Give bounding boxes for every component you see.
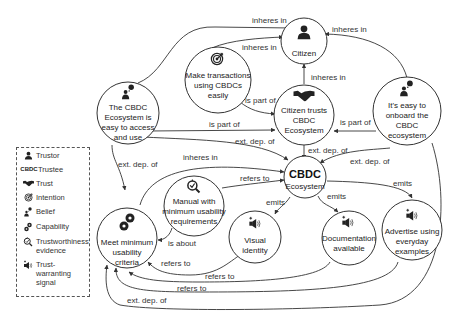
svg-text:Manual with: Manual with [173,197,216,206]
svg-text:easy to access: easy to access [102,123,155,132]
edge-label: inheres in [242,43,277,52]
svg-text:CBDC: CBDC [396,121,419,130]
magnifier-check-icon [20,237,36,247]
edge-label: inheres in [252,16,287,25]
svg-text:identity: identity [242,246,267,255]
svg-text:minimum usability: minimum usability [162,207,226,216]
node-visual-identity: Visual identity [229,211,281,263]
svg-text:Make transactions: Make transactions [186,71,251,80]
legend-item-intention: Intention [20,193,86,202]
node-manual: Manual with minimum usability requiremen… [162,176,226,236]
edge-label: refers to [161,259,191,268]
svg-text:CBDC: CBDC [293,116,316,125]
edge-label: ext. dep. of [235,137,275,146]
svg-text:everyday: everyday [396,237,428,246]
handshake-icon [20,179,36,187]
edge-label: is part of [340,118,371,127]
svg-text:Ecosystem: Ecosystem [284,126,323,135]
legend-item-trust-warranting-signal: Trust-warranting signal [20,260,86,287]
svg-text:using CBDCs: using CBDCs [194,81,242,90]
node-cbdc-ecosystem: CBDC Ecosystem [284,156,326,198]
edge-label: emits [393,179,412,188]
edge-easy-part-of-trusts [148,130,275,131]
svg-text:It's easy to: It's easy to [388,101,427,110]
node-documentation: Documentation available [322,211,376,265]
svg-text:usability: usability [113,248,142,257]
edge-label: refers to [240,174,270,183]
svg-text:requirements: requirements [171,217,218,226]
node-advertise: Advertise using everyday examples [382,200,442,260]
edge-advertise-refers-criteria [116,262,398,292]
svg-text:onboard the: onboard the [386,111,429,120]
edge-label: refers to [205,272,235,281]
node-citizen-trusts: Citizen trusts CBDC Ecosystem [274,85,334,145]
svg-text:available: available [333,244,365,253]
target-icon [211,53,222,64]
edge-label: is about [168,239,197,248]
edge-label: inheres in [332,25,367,34]
edge-label: ext. dep. of [350,157,390,166]
node-meet-criteria: Meet minimum usability criteria [97,208,157,268]
svg-text:Ecosystem: Ecosystem [285,182,324,191]
node-ecosystem-easy: The CBDC Ecosystem is easy to access and… [97,82,159,144]
person-icon [20,151,36,160]
legend-item-trustee: CBDC Trustee [20,165,86,174]
legend-item-trustworthiness-evidence: Trustworthiness evidence [20,237,86,255]
svg-text:CBDC: CBDC [289,168,321,180]
svg-text:Advertise using: Advertise using [385,227,440,236]
svg-text:and use: and use [114,133,143,142]
edge-label: inheres in [311,73,346,82]
svg-text:The CBDC: The CBDC [109,103,148,112]
legend-item-belief: Belief [20,207,86,217]
edge-onboard-to-citizen [325,34,407,78]
belief-icon [20,207,36,217]
gears-icon [20,222,36,232]
edge-label: is part of [209,120,240,129]
svg-text:ecosystem: ecosystem [388,131,427,140]
megaphone-icon [20,260,36,270]
svg-text:Meet minimum: Meet minimum [101,238,154,247]
edge-label: inheres in [183,153,218,162]
node-make-transactions: Make transactions using CBDCs easily [185,47,251,113]
legend: Trustor CBDC Trustee Trust Intention Bel… [16,147,90,297]
svg-text:Documentation: Documentation [322,234,376,243]
svg-text:Visual: Visual [244,236,266,245]
edges: inheres in inheres in inheres in inheres… [106,16,441,310]
edge-label: ext. dep. of [127,296,167,305]
svg-text:Ecosystem is: Ecosystem is [104,113,151,122]
target-icon [20,193,36,202]
edge-label: refers to [177,284,207,293]
node-citizen: Citizen [281,18,327,64]
svg-text:examples: examples [395,247,429,256]
svg-text:criteria: criteria [115,258,140,267]
svg-text:easily: easily [208,91,228,100]
legend-item-trust: Trust [20,179,86,188]
svg-text:Citizen: Citizen [292,49,316,58]
edge-label: emits [266,198,285,207]
svg-text:Citizen trusts: Citizen trusts [281,106,327,115]
node-easy-onboard: It's easy to onboard the CBDC ecosystem [373,77,441,145]
legend-item-capability: Capability [20,222,86,232]
edge-label: ext. dep. of [118,160,158,169]
edge-label: emits [327,192,346,201]
legend-item-trustor: Trustor [20,151,86,160]
cbdc-text-icon: CBDC [20,165,38,174]
edge-label: is part of [245,96,276,105]
